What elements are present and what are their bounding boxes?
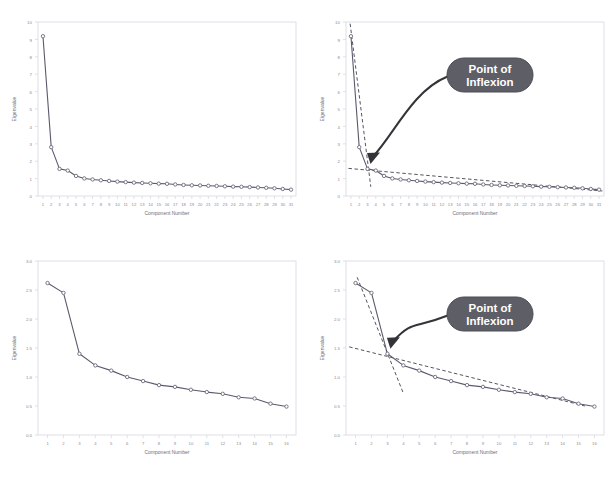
x-axis-tick-label: 30 bbox=[588, 202, 593, 207]
data-point-marker bbox=[545, 396, 548, 399]
data-point-marker bbox=[382, 174, 385, 177]
x-axis-tick-label: 12 bbox=[220, 441, 225, 446]
x-axis-tick-label: 1 bbox=[46, 441, 49, 446]
y-axis-tick-label: 1.5 bbox=[26, 346, 33, 351]
plot-frame bbox=[346, 22, 604, 196]
y-axis-tick-label: 2 bbox=[338, 159, 341, 164]
x-axis-tick-label: 18 bbox=[489, 202, 494, 207]
y-axis-tick-label: 10 bbox=[27, 20, 32, 25]
y-axis-tick-label: 7 bbox=[30, 72, 33, 77]
data-point-marker bbox=[433, 375, 436, 378]
y-axis-tick-label: 7 bbox=[338, 72, 341, 77]
data-point-marker bbox=[556, 185, 559, 188]
x-axis-tick-label: 23 bbox=[223, 202, 228, 207]
x-axis-tick-label: 5 bbox=[383, 202, 386, 207]
x-axis-tick-label: 13 bbox=[544, 441, 549, 446]
data-point-marker bbox=[110, 369, 113, 372]
y-axis-tick-label: 0.0 bbox=[334, 433, 341, 438]
x-axis-tick-label: 6 bbox=[434, 441, 437, 446]
data-point-marker bbox=[391, 177, 394, 180]
data-point-marker bbox=[189, 388, 192, 391]
data-point-marker bbox=[78, 352, 81, 355]
data-point-marker bbox=[448, 181, 451, 184]
data-point-marker bbox=[174, 183, 177, 186]
data-point-marker bbox=[157, 383, 160, 386]
x-axis-tick-label: 12 bbox=[440, 202, 445, 207]
y-axis-tick-label: 6 bbox=[338, 90, 341, 95]
x-axis-tick-label: 5 bbox=[418, 441, 421, 446]
data-point-marker bbox=[62, 291, 65, 294]
y-axis-tick-label: 1.5 bbox=[334, 346, 341, 351]
data-point-marker bbox=[50, 145, 53, 148]
x-axis-tick-label: 6 bbox=[83, 202, 86, 207]
y-axis-tick-label: 1.0 bbox=[26, 375, 33, 380]
x-axis-tick-label: 4 bbox=[67, 202, 70, 207]
y-axis-tick-label: 2.0 bbox=[334, 317, 341, 322]
x-axis-tick-label: 16 bbox=[284, 441, 289, 446]
x-axis-tick-label: 12 bbox=[132, 202, 137, 207]
x-axis-tick-label: 1 bbox=[42, 202, 45, 207]
x-axis-tick-label: 3 bbox=[58, 202, 61, 207]
data-point-marker bbox=[515, 184, 518, 187]
x-axis-tick-label: 7 bbox=[450, 441, 453, 446]
data-point-marker bbox=[490, 183, 493, 186]
x-axis-title: Component Number bbox=[452, 210, 497, 216]
chart-top-right: 0123456789101234567891011121314151617181… bbox=[308, 0, 616, 239]
callout-text-line1: Point of bbox=[469, 302, 512, 314]
data-point-marker bbox=[465, 182, 468, 185]
x-axis-tick-label: 24 bbox=[539, 202, 544, 207]
y-axis-tick-label: 5 bbox=[338, 107, 341, 112]
y-axis-tick-label: 10 bbox=[335, 20, 340, 25]
x-axis-tick-label: 3 bbox=[386, 441, 389, 446]
data-point-marker bbox=[182, 183, 185, 186]
data-point-marker bbox=[432, 180, 435, 183]
data-point-marker bbox=[593, 405, 596, 408]
y-axis-tick-label: 0 bbox=[338, 194, 341, 199]
x-axis-tick-label: 31 bbox=[289, 202, 294, 207]
x-axis-tick-label: 27 bbox=[564, 202, 569, 207]
data-point-marker bbox=[165, 182, 168, 185]
panel-bottom-left: 0.00.51.01.52.02.53.01234567891011121314… bbox=[0, 239, 308, 478]
data-point-marker bbox=[94, 364, 97, 367]
x-axis-tick-label: 8 bbox=[466, 441, 469, 446]
panel-top-right: 0123456789101234567891011121314151617181… bbox=[308, 0, 616, 239]
callout-text-line1: Point of bbox=[469, 63, 512, 75]
x-axis-tick-label: 7 bbox=[399, 202, 402, 207]
y-axis-title: Eigenvalue bbox=[319, 335, 325, 360]
data-point-marker bbox=[205, 390, 208, 393]
data-point-marker bbox=[41, 35, 44, 38]
x-axis-tick-label: 27 bbox=[256, 202, 261, 207]
x-axis-tick-label: 22 bbox=[214, 202, 219, 207]
data-point-marker bbox=[481, 385, 484, 388]
x-axis-tick-label: 1 bbox=[354, 441, 357, 446]
plot-frame bbox=[346, 261, 604, 435]
x-axis-tick-label: 2 bbox=[62, 441, 65, 446]
data-point-marker bbox=[399, 178, 402, 181]
data-point-marker bbox=[349, 35, 352, 38]
y-axis-tick-label: 4 bbox=[30, 125, 33, 130]
data-point-marker bbox=[58, 167, 61, 170]
data-point-marker bbox=[141, 379, 144, 382]
y-axis-tick-label: 8 bbox=[30, 55, 33, 60]
x-axis-tick-label: 24 bbox=[231, 202, 236, 207]
y-axis-tick-label: 6 bbox=[30, 90, 33, 95]
data-point-marker bbox=[581, 187, 584, 190]
x-axis-tick-label: 4 bbox=[402, 441, 405, 446]
scree-plot-figure: 0123456789101234567891011121314151617181… bbox=[0, 0, 616, 478]
data-point-marker bbox=[529, 392, 532, 395]
x-axis-tick-label: 14 bbox=[148, 202, 153, 207]
x-axis-tick-label: 11 bbox=[123, 202, 128, 207]
data-point-marker bbox=[424, 180, 427, 183]
data-point-marker bbox=[140, 181, 143, 184]
y-axis-tick-label: 1.0 bbox=[334, 375, 341, 380]
data-point-marker bbox=[482, 183, 485, 186]
x-axis-tick-label: 16 bbox=[473, 202, 478, 207]
data-point-marker bbox=[207, 184, 210, 187]
data-point-marker bbox=[248, 185, 251, 188]
x-axis-tick-label: 10 bbox=[115, 202, 120, 207]
x-axis-tick-label: 2 bbox=[50, 202, 53, 207]
panel-bottom-right: 0.00.51.01.52.02.53.01234567891011121314… bbox=[308, 239, 616, 478]
data-point-marker bbox=[497, 388, 500, 391]
data-point-marker bbox=[513, 390, 516, 393]
y-axis-tick-label: 8 bbox=[338, 55, 341, 60]
